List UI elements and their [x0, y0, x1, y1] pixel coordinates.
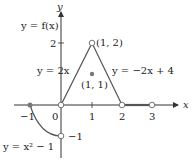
y-tick-label-2: 2 [50, 38, 56, 49]
point-label-1-1: (1, 1) [81, 79, 108, 90]
filled-point-neg1-0 [28, 103, 33, 108]
x-tick-label-2: 2 [119, 111, 125, 122]
piece-label-neg2x-plus4: y = −2x + 4 [111, 65, 174, 76]
x-axis-label: x [183, 99, 189, 110]
open-point-0-0 [58, 102, 64, 108]
piecewise-graph: y x y = f(x) 2 −1 −1 0 1 2 3 (1, 2) (1, … [0, 0, 193, 162]
y-tick-label-neg1: −1 [68, 131, 83, 142]
x-tick-label-neg1: −1 [20, 111, 35, 122]
x-tick-label-1: 1 [89, 111, 95, 122]
open-point-2-0 [119, 102, 125, 108]
y-axis-label: y [56, 1, 63, 12]
x-tick-label-0: 0 [52, 111, 58, 122]
filled-point-1-1 [90, 72, 94, 76]
open-point-0-neg1 [58, 133, 64, 139]
function-label: y = f(x) [20, 20, 59, 31]
point-label-1-2: (1, 2) [96, 37, 123, 48]
piece-label-2x: y = 2x [36, 65, 70, 76]
piece-label-parabola: y = x² − 1 [2, 141, 54, 152]
x-tick-label-3: 3 [149, 111, 155, 122]
open-point-3-0 [149, 102, 155, 108]
open-point-1-2 [89, 40, 95, 46]
